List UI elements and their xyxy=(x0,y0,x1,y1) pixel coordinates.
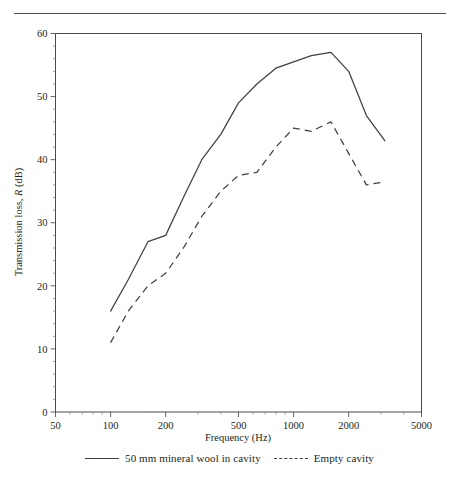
y-tick-label: 10 xyxy=(37,344,48,355)
x-tick-label: 2000 xyxy=(338,420,359,431)
y-axis-label-group: Transmission loss, R (dB) xyxy=(13,167,25,276)
x-tick-label: 200 xyxy=(158,420,174,431)
x-tick-label: 50 xyxy=(50,420,61,431)
legend-entry-mineral-wool: 50 mm mineral wool in cavity xyxy=(85,452,261,464)
x-tick-label: 5000 xyxy=(411,420,432,431)
x-tick-label: 500 xyxy=(231,420,247,431)
y-tick-label: 30 xyxy=(37,217,48,228)
y-tick-label: 40 xyxy=(37,154,48,165)
x-axis-label: Frequency (Hz) xyxy=(205,432,272,444)
y-axis-tick-labels: 0102030405060 xyxy=(37,28,48,418)
x-tick-label: 1000 xyxy=(283,420,304,431)
legend-label-mineral-wool: 50 mm mineral wool in cavity xyxy=(125,452,261,464)
dashed-line-swatch-icon xyxy=(274,458,308,459)
x-axis-tick-labels: 50100200500100020005000 xyxy=(50,420,432,431)
chart-legend: 50 mm mineral wool in cavity Empty cavit… xyxy=(0,452,459,464)
y-tick-label: 60 xyxy=(37,28,48,39)
series-line-empty-cavity xyxy=(111,122,385,343)
y-tick-label: 50 xyxy=(37,91,48,102)
solid-line-swatch-icon xyxy=(85,458,119,459)
plot-frame xyxy=(56,34,422,413)
y-tick-label: 0 xyxy=(42,407,47,418)
x-tick-label: 100 xyxy=(103,420,119,431)
legend-label-empty-cavity: Empty cavity xyxy=(314,452,374,464)
series-line-mineral-wool xyxy=(111,52,385,311)
y-axis-major-ticks xyxy=(51,34,56,413)
y-tick-label: 20 xyxy=(37,281,48,292)
x-axis-major-ticks xyxy=(56,412,422,417)
y-axis-label: Transmission loss, R (dB) xyxy=(13,167,25,276)
legend-entry-empty-cavity: Empty cavity xyxy=(274,452,374,464)
figure-container: 0102030405060 50100200500100020005000 Fr… xyxy=(0,0,459,483)
transmission-loss-chart: 0102030405060 50100200500100020005000 Fr… xyxy=(0,0,459,483)
